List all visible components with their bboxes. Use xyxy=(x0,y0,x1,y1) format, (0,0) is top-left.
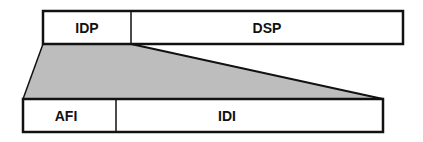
nsap-address-diagram: IDP DSP AFI IDI xyxy=(0,0,423,142)
expansion-wedge xyxy=(23,44,383,99)
bottom-box: AFI IDI xyxy=(23,99,383,132)
field-dsp-label: DSP xyxy=(253,20,282,36)
field-idp-label: IDP xyxy=(75,20,98,36)
top-box: IDP DSP xyxy=(43,11,403,44)
field-afi-label: AFI xyxy=(55,108,78,124)
field-idi-label: IDI xyxy=(218,108,236,124)
